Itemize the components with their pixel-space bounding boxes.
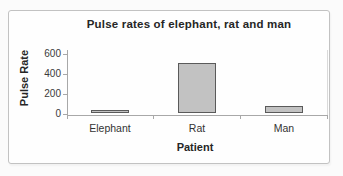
screenshot-root: { "chart_data": { "type": "bar", "title"…	[0, 0, 343, 176]
x-tick-mark	[327, 116, 328, 119]
y-axis-line	[67, 50, 68, 116]
x-axis-line	[67, 115, 328, 116]
x-tick-mark	[153, 116, 154, 119]
y-tick-label-400: 400	[31, 69, 61, 79]
x-category-label-rat: Rat	[157, 122, 237, 134]
plot-area-right-border	[327, 50, 328, 116]
x-tick-mark	[67, 116, 68, 119]
chart-frame: Pulse rates of elephant, rat and man Pul…	[8, 10, 330, 164]
bar-elephant	[91, 110, 129, 113]
bar-rat	[178, 63, 216, 113]
x-category-label-man: Man	[244, 122, 324, 134]
y-tick-label-600: 600	[31, 49, 61, 59]
y-axis-title: Pulse Rate	[18, 38, 32, 118]
x-category-label-elephant: Elephant	[70, 122, 150, 134]
bar-man	[265, 106, 303, 113]
chart-title: Pulse rates of elephant, rat and man	[49, 18, 329, 30]
y-tick-label-200: 200	[31, 89, 61, 99]
y-tick-label-0: 0	[31, 109, 61, 119]
x-tick-mark	[240, 116, 241, 119]
x-axis-title: Patient	[61, 141, 329, 153]
